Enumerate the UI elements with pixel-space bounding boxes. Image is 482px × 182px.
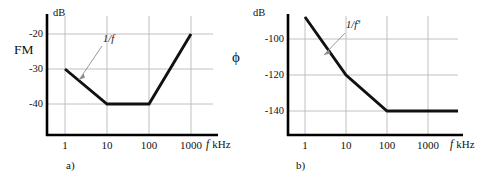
plot-b-graphics	[241, 0, 482, 182]
y-tick-label-b-2: -140	[250, 106, 284, 117]
y-tick-label-a-1: -30	[22, 64, 43, 75]
annotation-leader-line-a	[79, 46, 102, 80]
x-tick-label-a-0: 1	[51, 140, 79, 151]
x-tick-label-b-3: 1000	[414, 140, 442, 151]
annotation-slope-a-text: 1/f	[103, 33, 114, 44]
y-axis-unit-label-a: dB	[53, 8, 65, 19]
panel-a: dB FM -20 -30 -40 1 10 100 1000 fkHz 1/f…	[0, 0, 241, 182]
annotation-slope-a: 1/f	[103, 34, 114, 45]
y-tick-label-b-1: -120	[250, 70, 284, 81]
x-axis-symbol-a: f	[206, 138, 209, 150]
y-axis-title-b: ϕ	[232, 50, 240, 65]
data-curve-b	[305, 17, 458, 111]
panel-caption-a: a)	[66, 160, 75, 171]
x-axis-name-a: fkHz	[206, 139, 231, 151]
x-tick-label-b-2: 100	[373, 140, 401, 151]
y-axis-unit-label-b: dB	[253, 8, 265, 19]
figure-two-panel-noise-plots: dB FM -20 -30 -40 1 10 100 1000 fkHz 1/f…	[0, 0, 482, 182]
x-axis-symbol-b: f	[450, 138, 453, 150]
y-tick-label-b-0: -100	[250, 34, 284, 45]
x-tick-label-a-3: 1000	[177, 140, 205, 151]
x-tick-label-a-1: 10	[93, 140, 121, 151]
x-axis-unit-a: kHz	[212, 138, 230, 150]
annotation-slope-b-exponent: 3	[357, 18, 361, 26]
x-axis-name-b: fkHz	[450, 139, 475, 151]
x-tick-label-b-1: 10	[332, 140, 360, 151]
annotation-arrowhead-a	[79, 74, 85, 81]
panel-b: dB ϕ -100 -120 -140 1 10 100 1000 fkHz 1…	[241, 0, 482, 182]
y-tick-label-a-0: -20	[22, 29, 43, 40]
panel-caption-b: b)	[296, 160, 305, 171]
annotation-slope-b: 1/f3	[346, 20, 361, 31]
y-tick-label-a-2: -40	[22, 99, 43, 110]
annotation-slope-b-text: 1/f	[346, 19, 357, 30]
grid-lines-horizontal-a	[47, 34, 213, 104]
y-axis-title-a: FM	[14, 43, 34, 57]
x-axis-unit-b: kHz	[456, 138, 474, 150]
x-tick-label-a-2: 100	[135, 140, 163, 151]
x-tick-label-b-0: 1	[291, 140, 319, 151]
